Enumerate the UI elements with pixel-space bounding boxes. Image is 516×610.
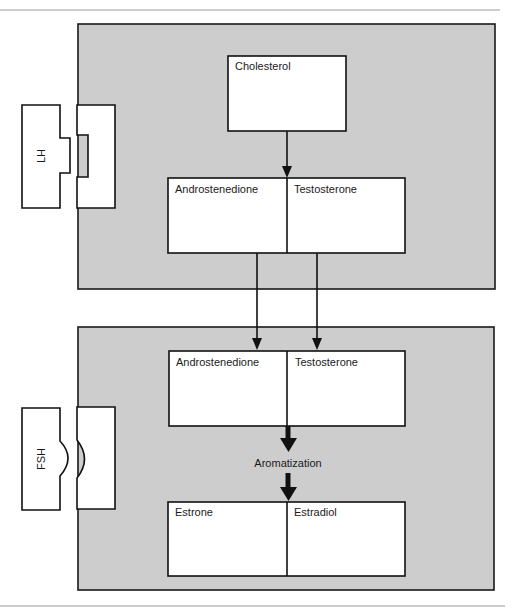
lower-testosterone-label: Testosterone — [295, 356, 358, 368]
aromatization-label: Aromatization — [254, 457, 321, 469]
fsh-label: FSH — [35, 448, 47, 470]
cholesterol-label: Cholesterol — [235, 60, 291, 72]
estrone-label: Estrone — [175, 506, 213, 518]
lh-label: LH — [35, 149, 47, 163]
lower-cell: FSH Androstenedione Testosterone Aromati… — [22, 327, 494, 590]
upper-testosterone-label: Testosterone — [294, 183, 357, 195]
upper-cell: LH Cholesterol Androstenedione Testoster… — [22, 24, 495, 289]
steroidogenesis-diagram: LH Cholesterol Androstenedione Testoster… — [0, 0, 516, 610]
upper-androstenedione-label: Androstenedione — [175, 183, 258, 195]
lower-androstenedione-label: Androstenedione — [176, 356, 259, 368]
estradiol-label: Estradiol — [294, 506, 337, 518]
